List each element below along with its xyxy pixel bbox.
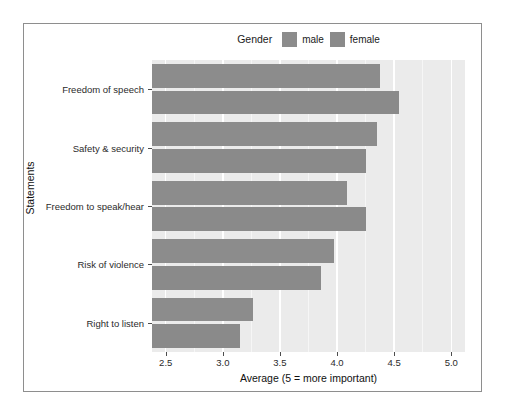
grid-line-major	[451, 60, 452, 352]
x-tick-label: 5.0	[445, 357, 458, 368]
x-tick-mark	[223, 352, 224, 356]
bar-female	[152, 266, 321, 290]
x-tick-label: 4.5	[388, 357, 401, 368]
legend-label-male: male	[302, 34, 324, 45]
y-tick-mark	[148, 323, 152, 324]
chart-figure: Gender male female Freedom of speechSafe…	[0, 0, 505, 418]
legend-key-male[interactable]: male	[282, 32, 324, 47]
grid-line-minor	[422, 60, 423, 352]
bar-female	[152, 324, 240, 348]
x-tick-mark	[280, 352, 281, 356]
y-tick-mark	[148, 264, 152, 265]
x-tick-mark	[451, 352, 452, 356]
y-tick-label: Safety & security	[73, 142, 144, 153]
bar-male	[152, 122, 377, 146]
x-tick-label: 4.0	[330, 357, 343, 368]
y-tick-mark	[148, 148, 152, 149]
legend-title: Gender	[237, 33, 272, 45]
legend-swatch-male-icon	[282, 32, 297, 47]
x-tick-label: 3.0	[216, 357, 229, 368]
bar-female	[152, 207, 366, 231]
y-tick-mark	[148, 206, 152, 207]
x-tick-label: 2.5	[159, 357, 172, 368]
plot-panel	[152, 60, 465, 352]
x-axis-title: Average (5 = more important)	[152, 372, 465, 384]
chart-legend: Gender male female	[152, 29, 465, 49]
x-tick-label: 3.5	[273, 357, 286, 368]
y-tick-label: Freedom to speak/hear	[46, 201, 144, 212]
y-tick-label: Freedom of speech	[62, 84, 144, 95]
y-tick-mark	[148, 89, 152, 90]
y-axis-title: Statements	[24, 118, 36, 258]
legend-label-female: female	[350, 34, 380, 45]
bar-female	[152, 91, 399, 115]
y-tick-label: Risk of violence	[77, 259, 144, 270]
bar-male	[152, 181, 347, 205]
legend-key-female[interactable]: female	[330, 32, 380, 47]
bar-female	[152, 149, 366, 173]
x-tick-mark	[337, 352, 338, 356]
bar-male	[152, 64, 380, 88]
x-tick-mark	[394, 352, 395, 356]
bar-male	[152, 239, 334, 263]
y-tick-label: Right to listen	[86, 317, 144, 328]
bar-male	[152, 298, 253, 322]
legend-swatch-female-icon	[330, 32, 345, 47]
x-tick-mark	[166, 352, 167, 356]
